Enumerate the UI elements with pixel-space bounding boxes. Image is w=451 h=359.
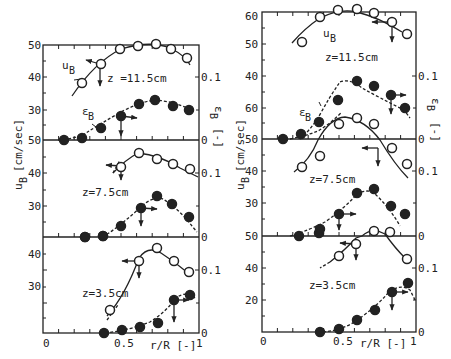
- svg-text:ε: ε: [212, 106, 225, 113]
- left-eps-tick-0b: 0: [201, 231, 208, 244]
- right-text: 60 50 40 60 50 40 30 50 40 20 0.1 0 0.1 …: [234, 10, 442, 350]
- left-xlabel: r/R [-]: [150, 339, 196, 352]
- left-eps-tick-01c: 0.1: [201, 264, 221, 277]
- left-tick-40: 40: [28, 71, 41, 84]
- left-ann-u: u B: [62, 59, 75, 76]
- right-z11-eps-curve: [300, 81, 410, 139]
- left-x-1: 1: [196, 337, 203, 350]
- right-z11-u-points: [298, 5, 412, 47]
- right-tick-50c: 50: [245, 230, 258, 243]
- svg-text:[-]: [-]: [429, 122, 442, 142]
- svg-text:B: B: [208, 113, 219, 119]
- svg-text:B: B: [305, 112, 311, 123]
- right-ylabel-u: u B [cm/sec]: [234, 119, 251, 190]
- left-eps-tick-01: 0.1: [201, 71, 221, 84]
- left-x-05: 0.5: [114, 337, 134, 350]
- right-x-1: 1: [410, 335, 417, 348]
- right-eps-tick-0c: 0: [418, 326, 425, 339]
- left-ylabel-u: u B [cm/sec]: [12, 119, 29, 190]
- right-x-0: 0: [260, 335, 267, 348]
- right-ann-u: u B: [323, 27, 336, 44]
- right-eps-tick-01c: 0.1: [418, 262, 438, 275]
- left-z3-label: z=3.5cm: [82, 287, 129, 300]
- right-eps-tick-01b: 0.1: [418, 165, 438, 178]
- left-text: 50 40 30 50 40 30 40 30 0.1 0 0.1 0 0.1 …: [12, 39, 225, 352]
- right-z3-u-points: [335, 227, 412, 264]
- left-tick-30c: 30: [28, 280, 41, 293]
- svg-text:B: B: [69, 65, 75, 76]
- left-x-0: 0: [43, 337, 50, 350]
- figure: 50 40 30 50 40 30 40 30 0.1 0 0.1 0 0.1 …: [0, 0, 451, 359]
- left-ylabel-eps: ε B [-]: [208, 106, 225, 148]
- right-x-05: 0.5: [333, 335, 353, 348]
- left-tick-40b: 40: [28, 167, 41, 180]
- right-z7-label: z=7.5cm: [309, 173, 356, 186]
- left-ann-eps: ε B: [82, 105, 94, 122]
- svg-text:B: B: [18, 177, 29, 183]
- right-tick-30b: 30: [245, 197, 258, 210]
- svg-text:B: B: [88, 111, 94, 122]
- svg-text:[cm/sec]: [cm/sec]: [12, 119, 25, 172]
- right-tick-50: 50: [245, 38, 258, 51]
- right-eps-tick-0b: 0: [418, 230, 425, 243]
- right-tick-40: 40: [245, 70, 258, 83]
- svg-text:B: B: [425, 105, 436, 111]
- svg-text:B: B: [240, 177, 251, 183]
- left-tick-30b: 30: [28, 200, 41, 213]
- right-xlabel: r/R [-]: [360, 337, 406, 350]
- svg-text:u: u: [12, 183, 25, 190]
- svg-text:u: u: [323, 27, 330, 40]
- right-z3-label: z=3.5cm: [309, 279, 356, 292]
- left-tick-40c: 40: [28, 248, 41, 261]
- right-tick-20c: 20: [245, 294, 258, 307]
- left-z3-u-points: [106, 244, 194, 315]
- left-tick-50: 50: [28, 39, 41, 52]
- svg-text:u: u: [62, 59, 69, 72]
- right-z11-label: z=11.5cm: [325, 51, 378, 64]
- left-z7-eps-curve: [103, 198, 197, 237]
- right-eps-tick-01: 0.1: [418, 70, 438, 83]
- left-z11-eps-points: [60, 96, 194, 145]
- right-ylabel-eps: ε B [-]: [425, 98, 442, 142]
- left-z7-label: z=7.5cm: [82, 186, 129, 199]
- svg-text:[-]: [-]: [212, 128, 225, 148]
- svg-text:[cm/sec]: [cm/sec]: [234, 119, 247, 172]
- right-tick-60: 60: [245, 10, 258, 23]
- right-eps-tick-0: 0: [418, 133, 425, 146]
- svg-text:B: B: [330, 33, 336, 44]
- svg-text:ε: ε: [429, 98, 442, 105]
- left-eps-tick-0: 0: [201, 134, 208, 147]
- right-tick-60b: 60: [245, 102, 258, 115]
- right-ann-eps: ε B: [299, 106, 311, 123]
- left-z11-label: z =11.5cm: [107, 72, 167, 85]
- left-eps-tick-01b: 0.1: [201, 167, 221, 180]
- left-tick-30: 30: [28, 104, 41, 117]
- left-tick-50b: 50: [28, 134, 41, 147]
- svg-text:u: u: [234, 183, 247, 190]
- right-tick-40c: 40: [245, 262, 258, 275]
